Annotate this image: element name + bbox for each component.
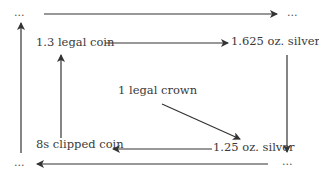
node-clipped-coin: 8s clipped coin: [36, 139, 124, 151]
node-top-left: ...: [14, 7, 25, 18]
arrow-crown-to-silver: [162, 104, 240, 139]
node-legal-coin: 1.3 legal coin: [36, 37, 114, 49]
node-bottom-right: ...: [282, 156, 293, 167]
node-bottom-left: ...: [14, 157, 25, 168]
node-silver-125: 1.25 oz. silver: [213, 142, 295, 154]
node-legal-crown: 1 legal crown: [118, 85, 197, 97]
node-top-right: ...: [287, 7, 298, 18]
node-silver-1625: 1.625 oz. silver: [231, 36, 319, 48]
